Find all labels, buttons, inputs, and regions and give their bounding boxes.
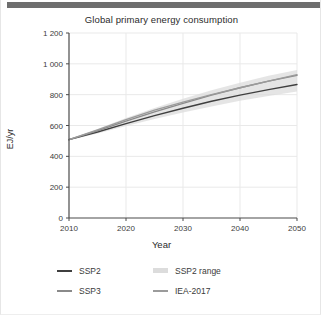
legend-swatch-line: [153, 290, 168, 292]
legend-swatch-band: [153, 268, 168, 273]
legend-item-ssp2[interactable]: SSP2: [57, 265, 153, 276]
x-axis-tick-label: 2030: [174, 224, 192, 233]
legend-label: IEA-2017: [175, 286, 210, 296]
y-axis-label: EJ/yr: [5, 109, 15, 169]
y-axis-tick-label: 1 200: [43, 29, 64, 38]
x-axis-label: Year: [1, 239, 321, 250]
y-axis-tick-label: 1 000: [43, 60, 64, 69]
y-axis-tick-label: 600: [50, 122, 64, 131]
legend-label: SSP2: [79, 266, 101, 276]
x-axis-tick-labels: 20102020203020402050: [60, 218, 306, 233]
plot-area: 02004006008001 0001 200 2010202020302040…: [1, 26, 321, 241]
legend-label: SSP2 range: [175, 266, 221, 276]
y-axis-tick-labels: 02004006008001 0001 200: [43, 29, 69, 223]
x-axis-tick-label: 2050: [288, 224, 306, 233]
y-axis-tick-label: 200: [50, 183, 64, 192]
x-axis-tick-label: 2040: [231, 224, 249, 233]
chart-legend: SSP2SSP2 rangeSSP3IEA-2017: [1, 265, 321, 305]
legend-grid: SSP2SSP2 rangeSSP3IEA-2017: [57, 265, 249, 296]
legend-label: SSP3: [79, 286, 101, 296]
y-axis-tick-label: 400: [50, 152, 64, 161]
plot-svg: 02004006008001 0001 200 2010202020302040…: [1, 26, 321, 241]
legend-item-iea-2017[interactable]: IEA-2017: [153, 285, 249, 296]
chart-page: Global primary energy consumption 020040…: [0, 0, 321, 315]
y-axis-tick-label: 0: [59, 214, 64, 223]
legend-swatch-line: [57, 270, 72, 272]
grid-lines: [69, 33, 297, 218]
x-axis-tick-label: 2020: [117, 224, 135, 233]
legend-item-ssp3[interactable]: SSP3: [57, 285, 153, 296]
legend-item-ssp2-range[interactable]: SSP2 range: [153, 265, 249, 276]
legend-swatch-line: [57, 290, 72, 292]
chart-title: Global primary energy consumption: [1, 14, 321, 25]
x-axis-tick-label: 2010: [60, 224, 78, 233]
window-top-bar: [7, 2, 320, 8]
y-axis-tick-label: 800: [50, 91, 64, 100]
